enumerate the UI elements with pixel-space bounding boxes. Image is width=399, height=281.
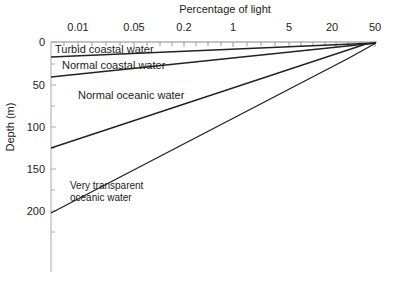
y-axis-title: Depth (m) [4, 103, 16, 152]
label-normal-coastal: Normal coastal water [62, 59, 166, 71]
x-tick-label: 0.01 [67, 21, 88, 33]
y-tick-label: 200 [27, 205, 45, 217]
x-tick-labels: 0.01 0.05 0.2 1 5 20 50 [67, 21, 381, 33]
x-tick-label: 5 [286, 21, 292, 33]
label-turbid-coastal: Turbid coastal water [55, 43, 154, 55]
y-tick-label: 150 [27, 163, 45, 175]
series-labels: Turbid coastal water Normal coastal wate… [55, 43, 185, 203]
chart-svg: Percentage of light 0.01 0.05 0.2 1 5 20… [0, 0, 399, 281]
y-axis-ticks [51, 42, 56, 232]
label-very-transparent-1: Very transparent [70, 180, 144, 191]
label-very-transparent-2: oceanic water [70, 192, 132, 203]
x-tick-label: 50 [369, 21, 381, 33]
x-tick-label: 20 [326, 21, 338, 33]
y-tick-label: 50 [33, 79, 45, 91]
x-tick-label: 0.05 [123, 21, 144, 33]
x-tick-label: 0.2 [176, 21, 191, 33]
y-tick-label: 0 [39, 36, 45, 48]
y-tick-label: 100 [27, 121, 45, 133]
x-axis-title: Percentage of light [179, 3, 271, 15]
x-tick-label: 1 [230, 21, 236, 33]
label-normal-oceanic: Normal oceanic water [78, 89, 185, 101]
y-tick-labels: 0 50 100 150 200 [27, 36, 45, 217]
